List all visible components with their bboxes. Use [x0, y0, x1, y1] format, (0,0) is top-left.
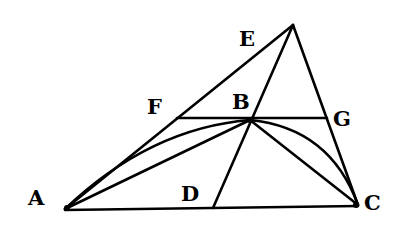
segment-AC	[65, 206, 358, 210]
label-A: A	[28, 187, 44, 208]
point-A-dot	[64, 205, 70, 211]
label-E: E	[239, 28, 255, 49]
segment-ED	[213, 25, 293, 208]
label-G: G	[333, 108, 351, 129]
point-C-dot	[353, 202, 359, 208]
label-F: F	[147, 96, 162, 117]
label-B: B	[232, 91, 250, 112]
label-D: D	[181, 183, 199, 204]
label-C: C	[364, 192, 381, 213]
point-B-dot	[247, 117, 253, 123]
